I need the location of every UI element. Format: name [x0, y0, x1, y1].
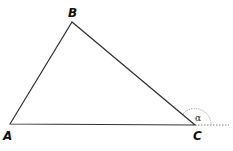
- triangle-abc: [10, 22, 195, 125]
- vertex-label-a: A: [2, 129, 12, 143]
- vertex-label-c: C: [193, 129, 202, 143]
- angle-label-alpha: α: [195, 113, 201, 123]
- triangle-diagram: α B A C: [0, 0, 233, 151]
- vertex-label-b: B: [68, 6, 77, 20]
